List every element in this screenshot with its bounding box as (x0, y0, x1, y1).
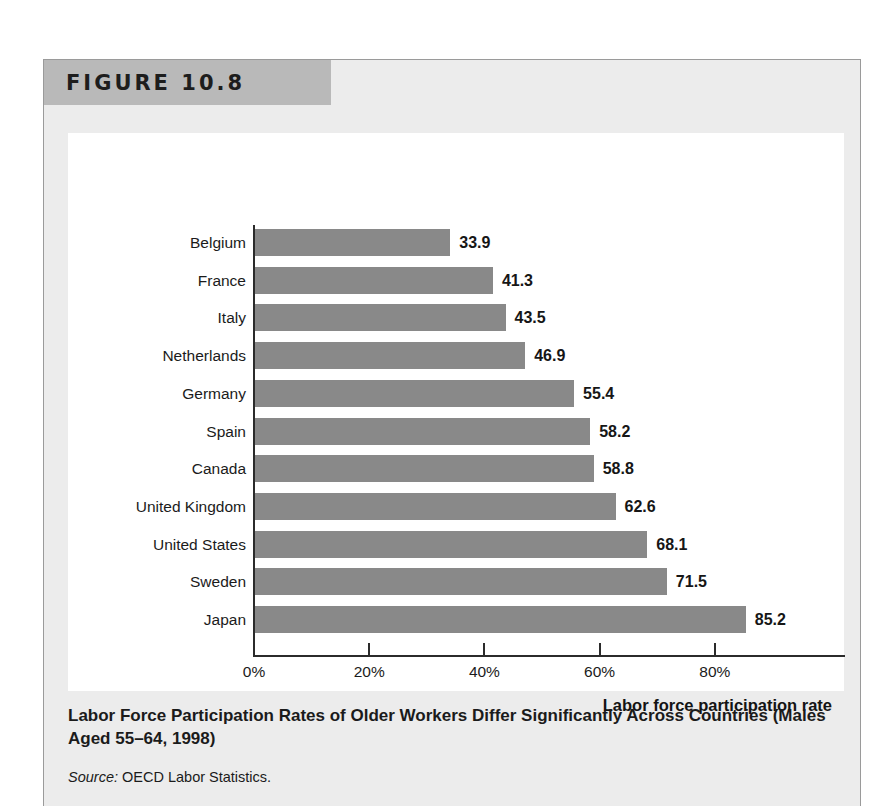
bar-row: Belgium33.9 (68, 229, 844, 267)
bar-value-label: 58.8 (603, 455, 634, 482)
category-label: Netherlands (76, 342, 246, 369)
figure-container: FIGURE 10.8 Belgium33.9France41.3Italy43… (43, 59, 861, 806)
x-tick-mark (599, 643, 601, 656)
bar-row: Japan85.2 (68, 606, 844, 644)
figure-number-banner: FIGURE 10.8 (44, 60, 331, 105)
x-tick-mark (714, 643, 716, 656)
x-tick-mark (368, 643, 370, 656)
category-label: United Kingdom (76, 493, 246, 520)
category-label: Japan (76, 606, 246, 633)
x-tick-mark (483, 643, 485, 656)
figure-page: FIGURE 10.8 Belgium33.9France41.3Italy43… (0, 0, 893, 806)
bar (255, 380, 574, 407)
category-label: United States (76, 531, 246, 558)
x-tick-label: 0% (243, 663, 265, 681)
bar-row: Canada58.8 (68, 455, 844, 493)
bar-row: Germany55.4 (68, 380, 844, 418)
bar-value-label: 68.1 (656, 531, 687, 558)
bar-row: United States68.1 (68, 531, 844, 569)
bar-row: Spain58.2 (68, 418, 844, 456)
bar-row: Netherlands46.9 (68, 342, 844, 380)
bar-value-label: 55.4 (583, 380, 614, 407)
bar (255, 568, 667, 595)
bar (255, 229, 450, 256)
bar-value-label: 41.3 (502, 267, 533, 294)
category-label: Belgium (76, 229, 246, 256)
bar-chart: Belgium33.9France41.3Italy43.5Netherland… (68, 133, 844, 691)
bar-row: United Kingdom62.6 (68, 493, 844, 531)
bar-value-label: 85.2 (755, 606, 786, 633)
bar-value-label: 58.2 (599, 418, 630, 445)
bar-row: Italy43.5 (68, 304, 844, 342)
bar-row: Sweden71.5 (68, 568, 844, 606)
bar-value-label: 62.6 (625, 493, 656, 520)
x-axis-line (253, 655, 845, 657)
source-prefix: Source: (68, 769, 118, 785)
figure-number-label: FIGURE 10.8 (66, 71, 245, 95)
x-tick-label: 40% (469, 663, 500, 681)
bar (255, 493, 616, 520)
figure-source: Source: OECD Labor Statistics. (68, 769, 271, 785)
bar (255, 455, 594, 482)
category-label: Sweden (76, 568, 246, 595)
bar-value-label: 43.5 (515, 304, 546, 331)
bar (255, 531, 647, 558)
category-label: Italy (76, 304, 246, 331)
bar (255, 267, 493, 294)
source-text: OECD Labor Statistics. (118, 769, 271, 785)
category-label: Spain (76, 418, 246, 445)
category-label: Germany (76, 380, 246, 407)
x-tick-label: 80% (699, 663, 730, 681)
x-tick-label: 20% (354, 663, 385, 681)
x-tick-label: 60% (584, 663, 615, 681)
bar (255, 342, 525, 369)
bar (255, 418, 590, 445)
figure-caption: Labor Force Participation Rates of Older… (68, 704, 836, 750)
bar (255, 304, 506, 331)
bar-row: France41.3 (68, 267, 844, 305)
chart-panel: Belgium33.9France41.3Italy43.5Netherland… (68, 133, 844, 691)
category-label: Canada (76, 455, 246, 482)
bar-value-label: 46.9 (534, 342, 565, 369)
category-label: France (76, 267, 246, 294)
bar-value-label: 71.5 (676, 568, 707, 595)
bar (255, 606, 746, 633)
bar-value-label: 33.9 (459, 229, 490, 256)
